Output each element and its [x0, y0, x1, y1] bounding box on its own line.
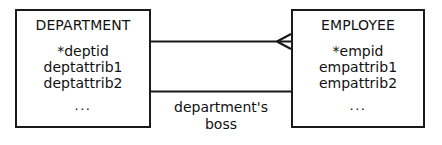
attribute-department-2: deptattrib2: [44, 75, 123, 91]
entity-title-department: DEPARTMENT: [36, 18, 131, 32]
attribute-department-ellipsis: ...: [75, 98, 92, 114]
crows-foot-many-icon: [277, 34, 291, 49]
attribute-employee-1: empattrib1: [319, 59, 397, 75]
relationship-label-departments-boss: department's boss: [152, 99, 290, 133]
attribute-department-1: deptattrib1: [44, 59, 123, 75]
entity-box-department[interactable]: DEPARTMENT *deptid deptattrib1 deptattri…: [15, 9, 151, 128]
relationship-label-line-2: boss: [152, 116, 290, 133]
attribute-list-employee: *empid empattrib1 empattrib2 ...: [319, 43, 397, 114]
attribute-list-department: *deptid deptattrib1 deptattrib2 ...: [44, 43, 123, 114]
attribute-employee-2: empattrib2: [319, 75, 397, 91]
attribute-employee-ellipsis: ...: [350, 98, 367, 114]
er-diagram: DEPARTMENT *deptid deptattrib1 deptattri…: [0, 0, 442, 145]
attribute-department-key: *deptid: [57, 43, 109, 59]
attribute-employee-key: *empid: [333, 43, 384, 59]
relationship-label-line-1: department's: [152, 99, 290, 116]
entity-box-employee[interactable]: EMPLOYEE *empid empattrib1 empattrib2 ..…: [291, 9, 425, 128]
entity-title-employee: EMPLOYEE: [321, 18, 395, 32]
